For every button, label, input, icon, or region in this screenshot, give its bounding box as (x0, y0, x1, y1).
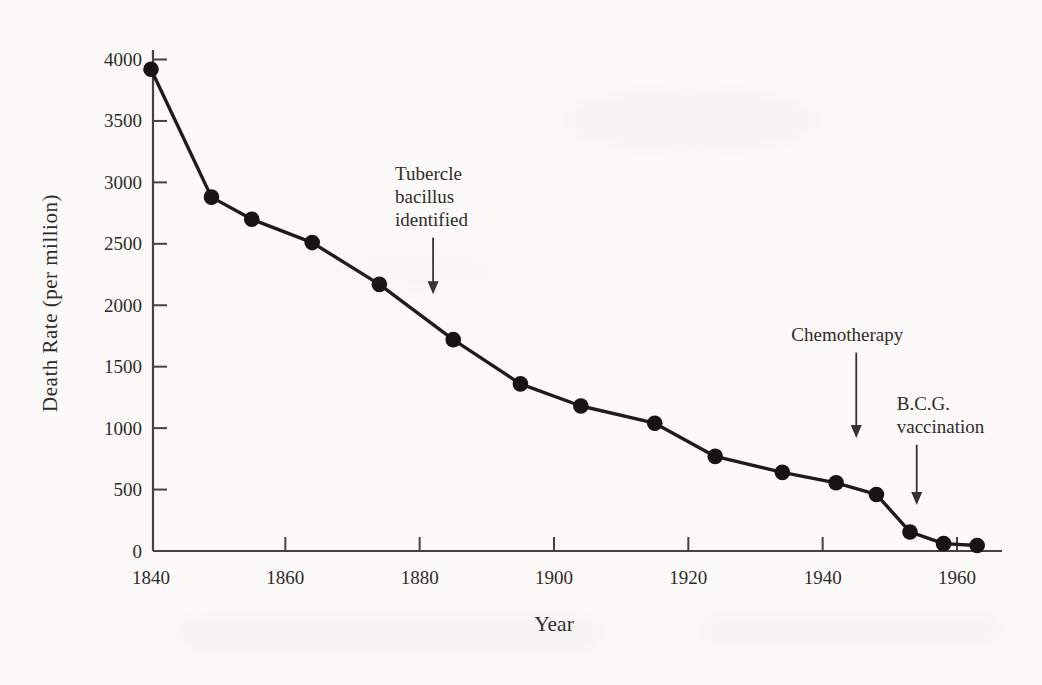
annotation-arrowhead-icon (851, 425, 862, 438)
data-point (969, 538, 985, 554)
tb-death-rate-line-chart: 0500100015002000250030003500400018401860… (0, 0, 1042, 685)
annotation-bcg-vaccination: B.C.G.vaccination (897, 393, 985, 505)
data-point (304, 235, 320, 251)
data-point (707, 449, 723, 465)
x-tick-label: 1920 (669, 567, 707, 588)
data-point (902, 524, 918, 540)
data-point (869, 487, 885, 503)
x-axis-title: Year (534, 612, 574, 636)
annotation-tubercle-bacillus-identified: Tuberclebacillusidentified (395, 163, 468, 295)
data-point (828, 475, 844, 491)
data-point (143, 62, 159, 78)
y-tick-label: 1000 (104, 418, 142, 439)
annotation-text-line: bacillus (395, 186, 454, 207)
y-tick-label: 0 (133, 541, 143, 562)
data-point (204, 189, 220, 205)
y-tick-label: 4000 (104, 49, 142, 70)
x-tick-label: 1900 (535, 567, 573, 588)
annotation-text-line: B.C.G. (897, 393, 950, 414)
data-point (647, 415, 663, 431)
x-tick-label: 1880 (401, 567, 439, 588)
data-point (513, 376, 529, 392)
data-point (244, 211, 260, 227)
data-point (936, 536, 952, 552)
x-tick-label: 1960 (938, 567, 976, 588)
y-tick-label: 3000 (104, 172, 142, 193)
annotation-text-line: identified (395, 209, 468, 230)
data-point (372, 277, 388, 293)
annotation-text-line: Tubercle (395, 163, 462, 184)
y-tick-label: 3500 (104, 110, 142, 131)
annotation-chemotherapy: Chemotherapy (791, 324, 903, 438)
annotation-text-line: vaccination (897, 416, 985, 437)
annotation-arrowhead-icon (911, 492, 922, 505)
y-tick-label: 2500 (104, 233, 142, 254)
data-point (573, 398, 589, 414)
death-rate-line (151, 69, 977, 545)
x-tick-label: 1860 (266, 567, 304, 588)
y-tick-label: 2000 (104, 295, 142, 316)
annotation-text-line: Chemotherapy (791, 324, 903, 345)
y-axis-title: Death Rate (per million) (38, 194, 62, 412)
y-tick-label: 1500 (104, 356, 142, 377)
x-tick-label: 1840 (132, 567, 170, 588)
data-point (775, 465, 791, 481)
annotation-arrowhead-icon (428, 281, 439, 294)
x-tick-label: 1940 (804, 567, 842, 588)
scanned-figure-page: 0500100015002000250030003500400018401860… (0, 0, 1042, 685)
y-tick-label: 500 (114, 479, 143, 500)
data-point (445, 332, 461, 348)
